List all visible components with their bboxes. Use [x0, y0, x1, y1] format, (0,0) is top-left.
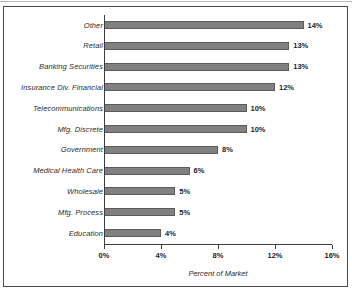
bar-row[interactable]: Insurance Div. Financial12% [4, 77, 349, 97]
scan-artifact-line [0, 1, 352, 2]
bar-track: 14% [104, 15, 323, 35]
bar-value-label: 5% [179, 208, 190, 217]
bar-value-label: 12% [279, 83, 294, 92]
bar-track: 5% [104, 181, 190, 201]
bar-row[interactable]: Telecommunications10% [4, 98, 349, 118]
bar-row[interactable]: Government8% [4, 140, 349, 160]
category-label: Government [0, 145, 103, 154]
bar[interactable] [104, 167, 190, 175]
bar[interactable] [104, 187, 175, 195]
bar-track: 4% [104, 223, 176, 243]
bar-row[interactable]: Retail13% [4, 36, 349, 56]
bar-track: 13% [104, 36, 308, 56]
category-label: Mfg. Process [0, 208, 103, 217]
x-axis-tick-label: 4% [141, 251, 181, 260]
bar[interactable] [104, 21, 304, 29]
bar-row[interactable]: Education4% [4, 223, 349, 243]
bar-row[interactable]: Mfg. Process5% [4, 202, 349, 222]
x-axis-tick-label: 8% [198, 251, 238, 260]
bar-value-label: 4% [165, 229, 176, 238]
bar-value-label: 10% [251, 125, 266, 134]
x-axis-tick-mark [332, 245, 333, 249]
bar[interactable] [104, 42, 289, 50]
category-label: Retail [0, 41, 103, 50]
chart-figure-frame: Other14%Retail13%Banking Securities13%In… [3, 6, 348, 287]
bar-track: 10% [104, 98, 266, 118]
category-label: Other [0, 21, 103, 30]
x-axis-tick-label: 0% [84, 251, 124, 260]
category-label: Mfg. Discrete [0, 125, 103, 134]
bar-value-label: 5% [179, 187, 190, 196]
bar-value-label: 10% [251, 104, 266, 113]
x-axis-tick-mark [275, 245, 276, 249]
bar[interactable] [104, 63, 289, 71]
category-label: Wholesale [0, 187, 103, 196]
bar-value-label: 6% [194, 166, 205, 175]
x-axis-title: Percent of Market [104, 269, 332, 278]
category-label: Medical Health Care [0, 166, 103, 175]
bar-track: 5% [104, 202, 190, 222]
x-axis-tick-mark [104, 245, 105, 249]
x-axis-tick-label: 12% [255, 251, 295, 260]
bar[interactable] [104, 83, 275, 91]
bar-value-label: 14% [308, 21, 323, 30]
bar-track: 8% [104, 140, 233, 160]
category-label: Education [0, 229, 103, 238]
bar[interactable] [104, 125, 247, 133]
x-axis-tick-label: 16% [312, 251, 352, 260]
bar-track: 13% [104, 57, 308, 77]
bar-row[interactable]: Wholesale5% [4, 181, 349, 201]
plot-area: Other14%Retail13%Banking Securities13%In… [4, 7, 349, 288]
bar[interactable] [104, 104, 247, 112]
bar-track: 6% [104, 161, 204, 181]
bar-row[interactable]: Other14% [4, 15, 349, 35]
category-label: Banking Securities [0, 62, 103, 71]
bar-series: Other14%Retail13%Banking Securities13%In… [4, 7, 349, 288]
bar[interactable] [104, 208, 175, 216]
bar-value-label: 13% [293, 62, 308, 71]
bar-row[interactable]: Banking Securities13% [4, 57, 349, 77]
bar-value-label: 8% [222, 145, 233, 154]
bar-value-label: 13% [293, 41, 308, 50]
bar-row[interactable]: Mfg. Discrete10% [4, 119, 349, 139]
category-label: Insurance Div. Financial [0, 83, 103, 92]
y-axis-line [104, 15, 105, 244]
x-axis-tick-mark [218, 245, 219, 249]
category-label: Telecommunications [0, 104, 103, 113]
x-axis-tick-mark [161, 245, 162, 249]
bar-track: 12% [104, 77, 294, 97]
bar[interactable] [104, 229, 161, 237]
bar[interactable] [104, 146, 218, 154]
bar-track: 10% [104, 119, 266, 139]
bar-row[interactable]: Medical Health Care6% [4, 161, 349, 181]
